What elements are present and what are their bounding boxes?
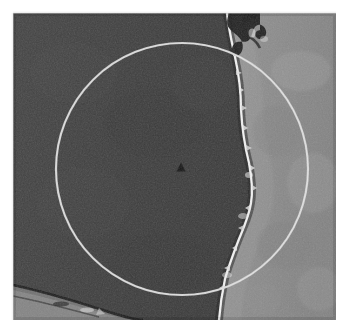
screenshot-root: [0, 0, 351, 334]
micrograph-canvas: [13, 13, 336, 320]
grain-overlay-coarse: [13, 13, 336, 320]
micrograph-image: [13, 13, 336, 320]
